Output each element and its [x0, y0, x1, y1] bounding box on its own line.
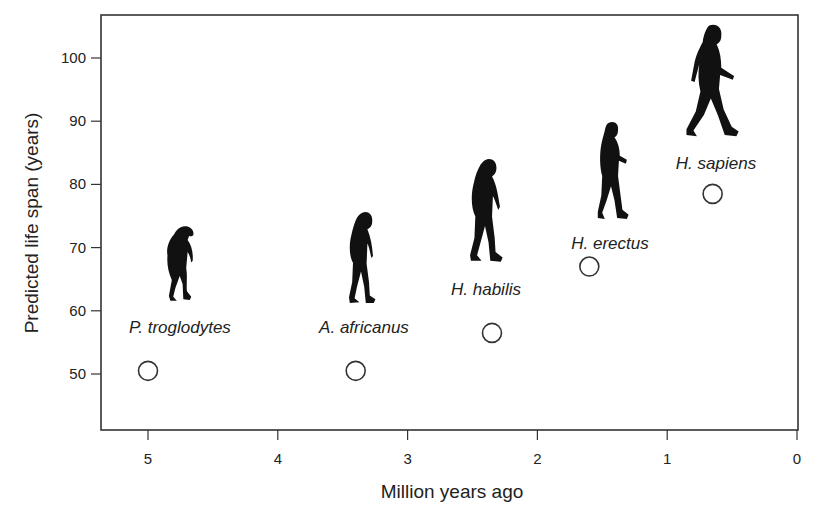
y-tick-label: 80 [69, 175, 86, 192]
hominid-silhouettes [167, 25, 739, 303]
erectus-silhouette-icon [598, 122, 629, 219]
species-label: A. africanus [318, 318, 409, 337]
x-axis: 543210 [144, 430, 801, 467]
species-label: P. troglodytes [129, 318, 231, 337]
species-label: H. sapiens [676, 154, 757, 173]
y-tick-label: 90 [69, 112, 86, 129]
y-axis: 1009080706050 [61, 49, 101, 382]
x-tick-label: 2 [533, 450, 541, 467]
species-label: H. erectus [571, 234, 649, 253]
x-tick-label: 3 [403, 450, 411, 467]
x-tick-label: 1 [663, 450, 671, 467]
y-tick-label: 60 [69, 302, 86, 319]
sapiens-silhouette-icon [686, 25, 738, 137]
life-span-chart: 1009080706050 543210 Predicted life span… [0, 0, 817, 513]
habilis-silhouette-icon [470, 159, 503, 262]
x-axis-title: Million years ago [381, 481, 524, 502]
australopithecus-silhouette-icon [349, 212, 375, 303]
x-tick-label: 0 [793, 450, 801, 467]
data-points: P. troglodytesA. africanusH. habilisH. e… [129, 154, 757, 380]
y-tick-label: 70 [69, 239, 86, 256]
x-tick-label: 4 [274, 450, 282, 467]
y-axis-title: Predicted life span (years) [21, 113, 42, 334]
y-tick-label: 50 [69, 365, 86, 382]
chimpanzee-silhouette-icon [167, 226, 193, 301]
x-tick-label: 5 [144, 450, 152, 467]
data-point-marker [482, 323, 501, 342]
data-point-marker [703, 184, 722, 203]
data-point-marker [580, 257, 599, 276]
species-label: H. habilis [451, 280, 521, 299]
data-point-marker [139, 361, 158, 380]
y-tick-label: 100 [61, 49, 86, 66]
data-point-marker [346, 361, 365, 380]
